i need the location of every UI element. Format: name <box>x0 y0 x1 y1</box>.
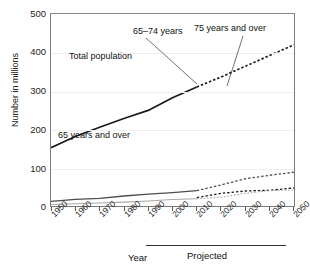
x-tick-label-2000: 2000 <box>170 199 190 219</box>
x-tick-label-1990: 1990 <box>146 199 166 219</box>
x-tick-label-2020: 2020 <box>218 199 238 219</box>
projected-bracket <box>146 245 286 246</box>
x-tick-label-1980: 1980 <box>122 199 142 219</box>
x-axis: 1950196019701980199020002010202020302040… <box>0 0 310 272</box>
x-tick-label-2030: 2030 <box>243 199 263 219</box>
x-tick-label-2010: 2010 <box>194 199 214 219</box>
x-tick-label-1950: 1950 <box>49 199 69 219</box>
x-tick-label-1960: 1960 <box>73 199 93 219</box>
projected-label: Projected <box>187 250 227 261</box>
x-tick-label-1970: 1970 <box>97 199 117 219</box>
x-axis-title: Year <box>128 252 147 263</box>
x-tick-label-2040: 2040 <box>267 199 287 219</box>
x-tick-label-2050: 2050 <box>291 199 310 219</box>
population-line-chart: Number in millions 500 400 300 200 100 0… <box>0 0 310 272</box>
